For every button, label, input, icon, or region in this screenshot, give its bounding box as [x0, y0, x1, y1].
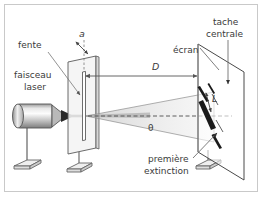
slit-plate — [67, 40, 99, 172]
fente-label: fente — [18, 40, 42, 50]
slit-width-indicator: a — [76, 28, 88, 54]
ecran-label: écran — [173, 45, 198, 55]
laser-rear-cap — [13, 104, 24, 128]
distance-indicator: D — [86, 61, 197, 76]
theta-label: θ — [148, 123, 154, 133]
screen-stand-base-front — [196, 166, 210, 169]
laser-source — [13, 104, 63, 169]
laser-nose — [52, 105, 62, 127]
faisceau-label-line1: faisceau — [14, 70, 52, 80]
distance-label: D — [152, 61, 159, 72]
laser-stand-base-front — [14, 166, 30, 169]
extinction-label-line1: première — [148, 154, 189, 164]
slit-aperture — [83, 71, 86, 140]
tache-label-line2: centrale — [206, 29, 243, 39]
faisceau-laser-annotation: faisceau laser — [14, 70, 52, 92]
tache-label-line1: tache — [213, 17, 239, 27]
slit-width-label: a — [79, 28, 85, 39]
spot-length-label: L — [212, 93, 217, 104]
figure-root: a fente faisceau laser θ — [0, 0, 264, 198]
faisceau-label-line2: laser — [24, 82, 46, 92]
slit-stand-base-front — [67, 169, 81, 172]
slit-plate-face — [68, 56, 96, 154]
slit-width-arrow — [76, 42, 88, 54]
slit-plate-edge — [96, 56, 99, 149]
optics-diffraction-diagram: a fente faisceau laser θ — [0, 0, 264, 198]
extinction-label-line2: extinction — [144, 166, 189, 176]
